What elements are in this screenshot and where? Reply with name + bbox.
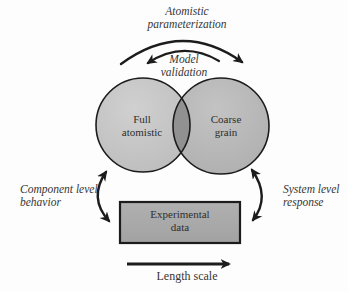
full-atomistic-label: Full atomistic [122, 113, 162, 138]
system-level-arrow [252, 170, 262, 220]
venn-cycle-diagram: Atomistic parameterization Model validat… [0, 0, 348, 292]
component-level-label: Component level behavior [20, 183, 98, 209]
system-level-label: System level response [283, 183, 340, 209]
coarse-grain-label: Coarse grain [211, 113, 242, 138]
atomistic-parameterization-label: Atomistic parameterization [147, 5, 226, 31]
length-scale-label: Length scale [157, 270, 218, 283]
diagram-canvas [0, 0, 348, 292]
model-validation-label: Model validation [161, 53, 208, 79]
component-level-arrow [98, 172, 109, 221]
experimental-data-label: Experimental data [150, 208, 209, 233]
